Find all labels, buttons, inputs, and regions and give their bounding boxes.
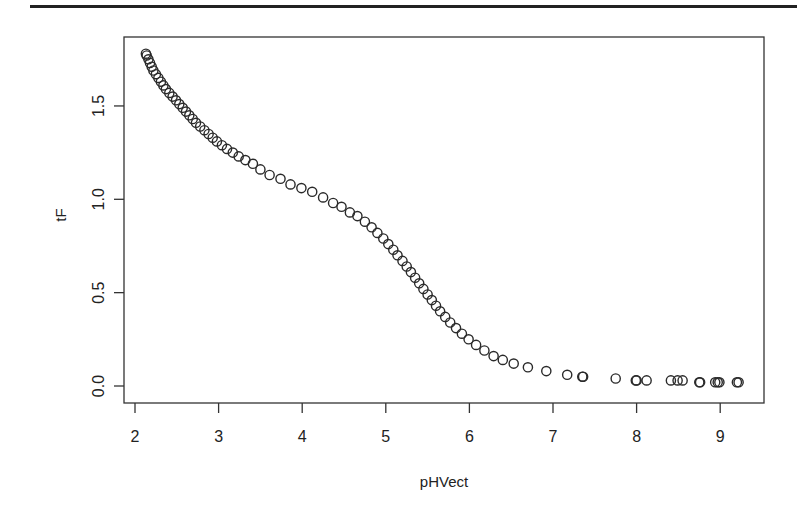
- y-tick-label: 1.0: [90, 188, 107, 210]
- data-point: [642, 376, 651, 385]
- y-axis-title: tF: [52, 208, 69, 221]
- data-point: [451, 324, 460, 333]
- x-axis-title: pHVect: [420, 473, 469, 490]
- data-point: [319, 193, 328, 202]
- x-tick-label: 7: [549, 428, 558, 445]
- data-point: [489, 352, 498, 361]
- data-point: [472, 340, 481, 349]
- data-point: [563, 370, 572, 379]
- data-point: [379, 234, 388, 243]
- x-axis: 23456789: [131, 403, 725, 445]
- y-tick-label: 0.0: [90, 375, 107, 397]
- plot-area-frame: [124, 37, 764, 403]
- data-point: [297, 184, 306, 193]
- data-point: [542, 367, 551, 376]
- data-point: [373, 228, 382, 237]
- data-points: [141, 49, 743, 387]
- data-point: [509, 359, 518, 368]
- data-point: [337, 202, 346, 211]
- data-point: [308, 187, 317, 196]
- data-point: [611, 374, 620, 383]
- x-tick-label: 9: [716, 428, 725, 445]
- y-axis: 0.00.51.01.5: [90, 95, 124, 397]
- x-tick-label: 8: [632, 428, 641, 445]
- data-point: [286, 180, 295, 189]
- data-point: [441, 312, 450, 321]
- data-point: [384, 240, 393, 249]
- y-tick-label: 0.5: [90, 281, 107, 303]
- x-tick-label: 5: [381, 428, 390, 445]
- data-point: [480, 346, 489, 355]
- data-point: [265, 170, 274, 179]
- data-point: [256, 165, 265, 174]
- x-tick-label: 2: [131, 428, 140, 445]
- x-tick-label: 3: [214, 428, 223, 445]
- data-point: [523, 363, 532, 372]
- data-point: [498, 355, 507, 364]
- scatter-chart: 23456789 0.00.51.01.5 pHVect tF: [0, 0, 797, 525]
- data-point: [446, 318, 455, 327]
- data-point: [367, 223, 376, 232]
- y-tick-label: 1.5: [90, 95, 107, 117]
- x-tick-label: 6: [465, 428, 474, 445]
- data-point: [276, 174, 285, 183]
- x-tick-label: 4: [298, 428, 307, 445]
